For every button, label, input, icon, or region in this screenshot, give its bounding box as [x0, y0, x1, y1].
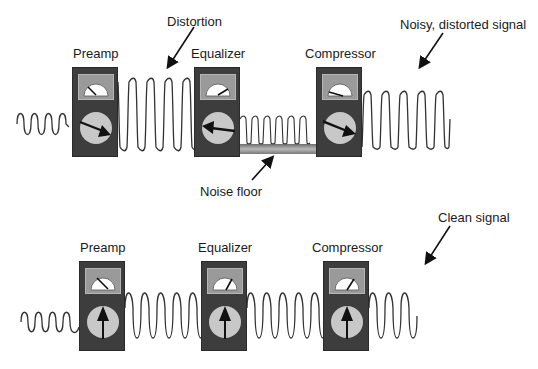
bottom-compressor-label: Compressor [312, 240, 383, 255]
bottom-compressor-device [323, 261, 369, 351]
vu-meter [78, 74, 114, 100]
knob-arrow-down-right-icon [323, 111, 357, 145]
bottom-input-wave [21, 312, 79, 332]
noisy-signal-arrow [422, 33, 443, 64]
distortion-label: Distortion [167, 14, 222, 29]
bottom-equalizer-label: Equalizer [198, 240, 252, 255]
top-output-wave [362, 91, 450, 149]
noise-floor-arrow [252, 160, 270, 180]
noise-floor-label: Noise floor [200, 184, 262, 199]
top-noisy-wave [240, 116, 310, 144]
top-equalizer-device [194, 67, 240, 157]
vu-meter [322, 74, 358, 100]
vu-meter [200, 74, 236, 100]
top-compressor-device [316, 67, 362, 157]
knob-arrow-down-right-icon [79, 111, 113, 145]
bottom-equalizer-device [201, 261, 247, 351]
bottom-preamp-device [79, 261, 125, 351]
top-preamp-device [72, 67, 118, 157]
knob-arrow-left-icon [201, 111, 235, 145]
noise-floor-bar [240, 144, 316, 154]
bottom-equalized-wave [247, 293, 327, 338]
top-distorted-wave [118, 78, 198, 151]
knob-arrow-up-icon [330, 305, 364, 339]
top-preamp-label: Preamp [73, 46, 119, 61]
knob-arrow-up-icon [86, 305, 120, 339]
top-compressor-label: Compressor [305, 46, 376, 61]
bottom-amplified-wave [125, 293, 205, 338]
top-equalizer-label: Equalizer [191, 46, 245, 61]
bottom-preamp-label: Preamp [80, 240, 126, 255]
clean-signal-arrow [428, 226, 450, 260]
clean-signal-label: Clean signal [438, 210, 510, 225]
knob-arrow-up-icon [208, 305, 242, 339]
vu-meter [207, 268, 243, 294]
top-input-wave [17, 114, 69, 135]
noisy-signal-label: Noisy, distorted signal [400, 17, 526, 32]
vu-meter [329, 268, 365, 294]
vu-meter [85, 268, 121, 294]
bottom-output-wave [369, 293, 417, 338]
